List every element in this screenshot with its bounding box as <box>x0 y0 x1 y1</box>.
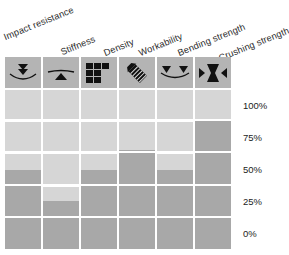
chart-grid <box>5 90 233 249</box>
icon-cell-workability <box>119 57 155 88</box>
brick-grid-icon <box>85 62 113 84</box>
diagonal-file-tool-icon <box>123 61 151 85</box>
grid-cell <box>157 122 193 152</box>
bar-column-stiffness <box>43 90 79 249</box>
icon-cell-bending-strength <box>157 57 193 88</box>
grid-cell <box>119 154 155 184</box>
grid-cell <box>195 154 231 184</box>
grid-cell <box>195 122 231 152</box>
beam-on-fulcrum-icon <box>46 63 76 83</box>
grid-cell <box>119 219 155 249</box>
y-tick-0: 0% <box>243 217 289 249</box>
grid-cell <box>81 154 117 184</box>
y-tick-50: 50% <box>243 154 289 186</box>
property-rating-chart: Impact resistance Stiffness Density Work… <box>0 0 289 255</box>
icon-cell-density <box>81 57 117 88</box>
icon-cell-impact-resistance <box>5 57 41 88</box>
grid-cell <box>43 90 79 120</box>
grid-cell <box>81 219 117 249</box>
double-chevron-down-on-curve-icon <box>9 62 37 84</box>
grid-cell <box>119 90 155 120</box>
column-header-labels: Impact resistance Stiffness Density Work… <box>0 0 289 56</box>
icon-cell-stiffness <box>43 57 79 88</box>
grid-cell <box>5 219 41 249</box>
grid-cell <box>43 187 79 217</box>
icon-cell-crushing-strength <box>195 57 231 88</box>
grid-cell <box>5 90 41 120</box>
grid-cell <box>157 90 193 120</box>
y-tick-75: 75% <box>243 122 289 154</box>
two-loads-on-sagging-beam-icon <box>160 63 190 83</box>
property-icon-row <box>5 57 233 88</box>
grid-cell <box>157 154 193 184</box>
grid-cell <box>81 90 117 120</box>
grid-cell <box>119 122 155 152</box>
grid-cell <box>195 219 231 249</box>
column-header-density: Density <box>102 37 135 58</box>
grid-cell <box>195 90 231 120</box>
bar-column-crushing-strength <box>195 90 231 249</box>
grid-cell <box>81 122 117 152</box>
grid-cell <box>157 187 193 217</box>
bar-column-impact-resistance <box>5 90 41 249</box>
grid-cell <box>43 154 79 184</box>
column-header-stiffness: Stiffness <box>59 34 96 57</box>
grid-cell <box>195 187 231 217</box>
grid-cell <box>81 187 117 217</box>
grid-cell <box>5 122 41 152</box>
bar-column-workability <box>119 90 155 249</box>
grid-cell <box>5 154 41 184</box>
grid-cell <box>157 219 193 249</box>
grid-cell <box>5 187 41 217</box>
bar-column-density <box>81 90 117 249</box>
grid-cell <box>119 187 155 217</box>
hourglass-compression-arrows-icon <box>198 62 228 84</box>
y-tick-100: 100% <box>243 90 289 122</box>
column-header-workability: Workability <box>137 31 184 58</box>
bar-column-bending-strength <box>157 90 193 249</box>
y-axis-tick-labels: 100% 75% 50% 25% 0% <box>243 90 289 249</box>
column-header-impact-resistance: Impact resistance <box>2 5 75 42</box>
y-tick-25: 25% <box>243 185 289 217</box>
grid-cell <box>43 219 79 249</box>
grid-cell <box>43 122 79 152</box>
